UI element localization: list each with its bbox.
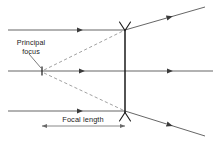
mirror — [120, 22, 131, 121]
reflected-ray-lower-line — [125, 111, 205, 136]
reflected-ray-upper — [125, 7, 205, 30]
principal-focus-leader-line — [29, 54, 41, 68]
virtual-ray-upper-dashed — [44, 30, 125, 70]
ray-diagram-canvas: Principal focus Focal length — [0, 0, 213, 141]
virtual-ray-lower-dashed — [44, 73, 125, 111]
principal-focus-label-line1: Principal — [17, 38, 46, 47]
principal-focus-label-line2: focus — [22, 47, 40, 56]
focal-length-label: Focal length — [62, 115, 103, 124]
mirror-bottom-fletching-icon — [120, 113, 131, 122]
reflected-ray-lower — [125, 111, 205, 136]
ray-diagram-svg: Principal focus Focal length — [0, 0, 213, 141]
reflected-ray-upper-line — [125, 7, 205, 30]
